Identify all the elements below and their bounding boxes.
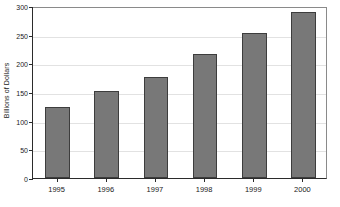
- y-tick-mark: [29, 150, 33, 151]
- gridline: [33, 151, 326, 152]
- x-tick-mark: [204, 178, 205, 182]
- x-tick-label: 1996: [97, 185, 114, 194]
- bar: [242, 33, 267, 178]
- bar: [291, 12, 316, 178]
- y-tick-label: 200: [16, 61, 28, 68]
- x-tick-label: 1999: [245, 185, 262, 194]
- y-tick-label: 0: [24, 176, 28, 183]
- x-axis-tick-marks: [32, 178, 327, 183]
- x-axis-tick-labels: 199519961997199819992000: [32, 185, 327, 199]
- bar: [144, 77, 169, 178]
- y-tick-mark: [29, 64, 33, 65]
- y-axis-tick-labels: 050100150200250300: [8, 0, 28, 207]
- x-tick-mark: [57, 178, 58, 182]
- x-tick-mark: [253, 178, 254, 182]
- x-tick-label: 1997: [147, 185, 164, 194]
- y-tick-label: 300: [16, 4, 28, 11]
- y-tick-mark: [29, 179, 33, 180]
- y-tick-mark: [29, 122, 33, 123]
- bar: [45, 107, 70, 178]
- gridline: [33, 94, 326, 95]
- y-tick-label: 250: [16, 32, 28, 39]
- y-tick-mark: [29, 36, 33, 37]
- bar: [94, 91, 119, 178]
- y-tick-label: 50: [20, 147, 28, 154]
- x-tick-mark: [106, 178, 107, 182]
- bar: [193, 54, 218, 178]
- x-tick-mark: [155, 178, 156, 182]
- gridline: [33, 65, 326, 66]
- x-tick-label: 1995: [48, 185, 65, 194]
- y-tick-mark: [29, 7, 33, 8]
- y-tick-label: 150: [16, 90, 28, 97]
- x-tick-mark: [302, 178, 303, 182]
- x-tick-label: 1998: [196, 185, 213, 194]
- y-tick-mark: [29, 93, 33, 94]
- gridline: [33, 123, 326, 124]
- gridline: [33, 37, 326, 38]
- x-tick-label: 2000: [294, 185, 311, 194]
- y-tick-label: 100: [16, 118, 28, 125]
- plot-area: [32, 7, 327, 179]
- bar-chart-figure: Billions of Dollars 050100150200250300 1…: [0, 0, 340, 207]
